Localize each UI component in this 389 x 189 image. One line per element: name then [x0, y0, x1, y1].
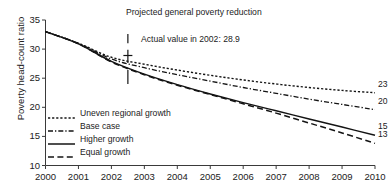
series-end-label: 13 — [378, 130, 388, 139]
x-tick-label: 2008 — [292, 172, 326, 182]
y-tick-label: 15 — [12, 131, 40, 141]
x-tick-label: 2005 — [193, 172, 227, 182]
y-tick-label: 25 — [12, 73, 40, 83]
legend-swatch-icon — [48, 109, 75, 119]
legend: Uneven regional growthBase caseHigher gr… — [48, 107, 188, 159]
y-tick-label: 35 — [12, 15, 40, 25]
legend-swatch-icon — [48, 148, 75, 158]
series-line-uneven-regional-growth — [46, 32, 376, 93]
y-axis-ticks — [42, 20, 46, 166]
y-tick-label: 20 — [12, 102, 40, 112]
series-line-base-case — [46, 32, 376, 110]
legend-label: Equal growth — [80, 148, 130, 157]
series-end-label: 20 — [378, 97, 388, 106]
x-tick-label: 2000 — [29, 172, 63, 182]
x-tick-label: 2009 — [325, 172, 359, 182]
legend-label: Base case — [80, 122, 120, 131]
y-tick-label: 10 — [12, 161, 40, 171]
legend-label: Higher growth — [80, 135, 134, 144]
legend-item: Equal growth — [48, 146, 188, 159]
x-axis-ticks — [46, 166, 376, 170]
series-end-label: 23 — [378, 80, 388, 89]
x-tick-label: 2001 — [61, 172, 95, 182]
y-tick-label: 30 — [12, 44, 40, 54]
legend-swatch-icon — [48, 135, 75, 145]
legend-swatch-icon — [48, 122, 75, 132]
x-tick-label: 2004 — [160, 172, 194, 182]
legend-item: Higher growth — [48, 133, 188, 146]
legend-item: Uneven regional growth — [48, 107, 188, 120]
x-tick-label: 2010 — [358, 172, 389, 182]
poverty-projection-chart: Poverty head-count ratio Projected gener… — [0, 0, 389, 189]
x-tick-label: 2007 — [259, 172, 293, 182]
legend-label: Uneven regional growth — [80, 109, 171, 118]
x-tick-label: 2003 — [127, 172, 161, 182]
x-tick-label: 2006 — [226, 172, 260, 182]
x-tick-label: 2002 — [94, 172, 128, 182]
legend-item: Base case — [48, 120, 188, 133]
actual-value-marker — [123, 34, 132, 84]
